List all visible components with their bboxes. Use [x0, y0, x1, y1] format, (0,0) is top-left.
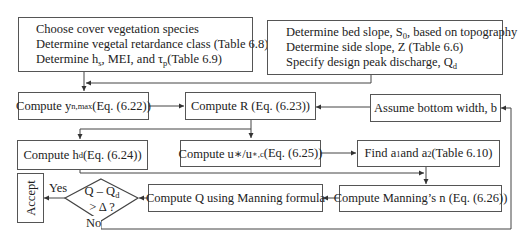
- compute-yn-max-box: Compute yn,max (Eq. (6.22)): [18, 92, 149, 120]
- side-slope-line: Determine side slope, Z (Table 6.6): [286, 40, 463, 55]
- yes-label: Yes: [49, 181, 67, 196]
- choose-vegetation-line: Choose cover vegetation species: [36, 22, 199, 37]
- decision-text: Q – Qd > Δ ?: [74, 183, 130, 215]
- bed-slope-line: Determine bed slope, S0, based on topogr…: [286, 25, 517, 40]
- retardance-class-line: Determine vegetal retardance class (Tabl…: [36, 37, 268, 52]
- compute-r-box: Compute R (Eq. (6.23)): [185, 92, 316, 120]
- assume-bottom-width-box: Assume bottom width, b: [370, 94, 501, 122]
- accept-terminal: Accept: [17, 173, 44, 223]
- compute-u-ratio-box: Compute u∗/u∗,c (Eq. (6.25)): [180, 140, 321, 167]
- compute-q-manning-box: Compute Q using Manning formula: [148, 184, 323, 212]
- compute-manning-n-box: Compute Manning’s n (Eq. (6.26)): [339, 185, 502, 212]
- compute-hd-box: Compute hd (Eq. (6.24)): [17, 140, 148, 170]
- design-discharge-line: Specify design peak discharge, Qd: [286, 55, 457, 70]
- channel-input-box: Determine bed slope, S0, based on topogr…: [267, 20, 503, 75]
- hs-mei-tau-line: Determine hs, MEI, and τp(Table 6.9): [36, 52, 222, 67]
- no-label: No: [86, 216, 101, 231]
- vegetation-input-box: Choose cover vegetation species Determin…: [18, 17, 253, 72]
- find-a1-a2-box: Find a1and a2 (Table 6.10): [357, 140, 500, 167]
